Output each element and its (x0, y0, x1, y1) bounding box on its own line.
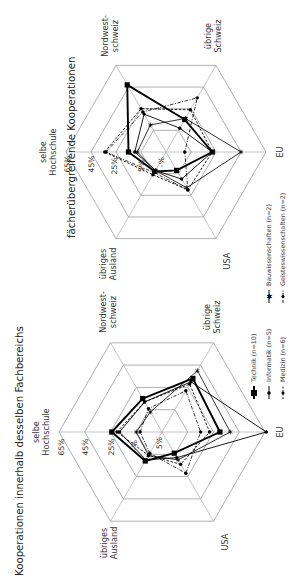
axis-label-uebriges-ausland: übriges (98, 249, 108, 280)
axis-label-uebriges-ausland: übriges (99, 528, 109, 559)
dot-marker-icon (282, 392, 285, 395)
axis-label-usa: USA (222, 252, 232, 269)
chart-title: Kooperationen innerhalb desselben Fachbe… (14, 326, 25, 576)
tick-25: 25% (110, 158, 119, 175)
tick-neg: -% (157, 157, 166, 167)
dot-marker-icon (186, 188, 189, 191)
axis-label-uebrige-schweiz-2: Schweiz (212, 300, 222, 333)
legend-item-geisteswissenschaften: Geisteswissenschaften (n=2) (279, 193, 287, 303)
series-line (106, 98, 197, 190)
dot-marker-icon (138, 430, 141, 433)
radar-series-group (109, 368, 268, 475)
axis-label-uebrige-schweiz-2: Schweiz (213, 19, 223, 52)
svg-text:Technik (n=10): Technik (n=10) (250, 334, 258, 383)
axis-label-nordwestschweiz: Nordwest- (98, 291, 108, 333)
svg-text:Bauwissenschaften (n=2): Bauwissenschaften (n=2) (265, 204, 273, 286)
tick-65: 65% (63, 156, 72, 173)
square-marker-icon (109, 429, 114, 434)
dot-marker-icon (178, 126, 181, 129)
dot-marker-icon (139, 107, 142, 110)
axis-label-uebrige-schweiz: übrige (202, 304, 212, 330)
dot-marker-icon (183, 150, 186, 153)
dot-marker-icon (184, 472, 187, 475)
tick-45: 45% (87, 156, 96, 173)
axis-label-uebriges-ausland-2: Ausland (108, 248, 118, 281)
dot-marker-icon (188, 382, 191, 385)
dot-marker-icon (147, 407, 150, 410)
dot-marker-icon (115, 430, 118, 433)
dot-marker-icon (184, 389, 187, 392)
legend-item-technik: Technik (n=10) (250, 334, 258, 399)
tick-25: 25% (107, 439, 116, 456)
axis-label-selbe-hochschule-2: Hochschule (41, 408, 51, 455)
dot-marker-icon (104, 150, 107, 153)
square-marker-icon (125, 82, 130, 87)
tick-neg: -% (130, 440, 139, 450)
square-marker-icon (251, 390, 257, 396)
dot-marker-icon (180, 177, 183, 180)
axis-label-selbe-hochschule-2: Hochschule (48, 128, 58, 175)
svg-text:Geisteswissenschaften (n=2): Geisteswissenschaften (n=2) (279, 193, 287, 286)
star-marker-icon: ✱ (267, 293, 273, 301)
axis-label-eu: EU (275, 426, 285, 437)
legend: Technik (n=10) Informatik (n=5) Medizin … (250, 193, 287, 399)
tick-65: 65% (57, 439, 66, 456)
dot-marker-icon (282, 295, 285, 298)
square-marker-icon (217, 429, 222, 434)
svg-text:Medizin (n=6): Medizin (n=6) (279, 337, 287, 382)
axis-label-uebriges-ausland-2: Ausland (109, 527, 119, 560)
dot-marker-icon (152, 171, 155, 174)
radar-grid (59, 343, 265, 521)
figure: Kooperationen innerhalb desselben Fachbe… (0, 0, 293, 580)
dot-marker-icon (144, 458, 147, 461)
dot-marker-icon (141, 110, 144, 113)
dot-marker-icon (179, 463, 182, 466)
series-line (120, 382, 267, 460)
radar-figure: Kooperationen innerhalb desselben Fachbe… (0, 0, 293, 580)
tick-45: 45% (81, 439, 90, 456)
dot-marker-icon (211, 150, 214, 153)
square-marker-icon (174, 168, 179, 173)
legend-item-informatik: Informatik (n=5) (265, 329, 273, 399)
radar-chart-same-field: Kooperationen innerhalb desselben Fachbe… (14, 291, 285, 576)
axis-label-eu: EU (275, 146, 285, 157)
axis-label-nordwestschweiz-2: schweiz (108, 296, 118, 328)
axis-label-usa: USA (220, 533, 230, 550)
axis-label-nordwestschweiz-2: schweiz (110, 20, 120, 52)
radar-grid (66, 65, 266, 238)
svg-text:Informatik (n=5): Informatik (n=5) (265, 329, 273, 382)
axis-label-uebrige-schweiz: übrige (203, 23, 213, 49)
axis-label-selbe-hochschule: selbe (38, 141, 48, 163)
dot-marker-icon (208, 430, 211, 433)
radar-series-group (103, 82, 243, 191)
dot-marker-icon (196, 96, 199, 99)
axis-label-nordwestschweiz: Nordwest- (100, 15, 110, 57)
dot-marker-icon (199, 430, 202, 433)
square-marker-icon (126, 149, 131, 154)
legend-item-medizin: Medizin (n=6) (279, 337, 287, 399)
series-line (105, 109, 213, 190)
square-marker-icon (172, 451, 177, 456)
dot-marker-icon (148, 451, 151, 454)
dot-marker-icon (265, 430, 268, 433)
radar-chart-interdisciplinary: fächerübergreifende Kooperationen selbe … (38, 15, 285, 280)
dot-marker-icon (267, 391, 271, 395)
tick-5: 5% (155, 437, 164, 449)
axis-label-selbe-hochschule: selbe (31, 421, 41, 443)
legend-item-bauwissenschaften: ✱ Bauwissenschaften (n=2) (265, 204, 273, 303)
tick-5: 5% (137, 160, 146, 172)
dot-marker-icon (189, 108, 192, 111)
chart-title: fächerübergreifende Kooperationen (66, 57, 77, 238)
dot-marker-icon (133, 150, 136, 153)
dot-marker-icon (143, 400, 146, 403)
